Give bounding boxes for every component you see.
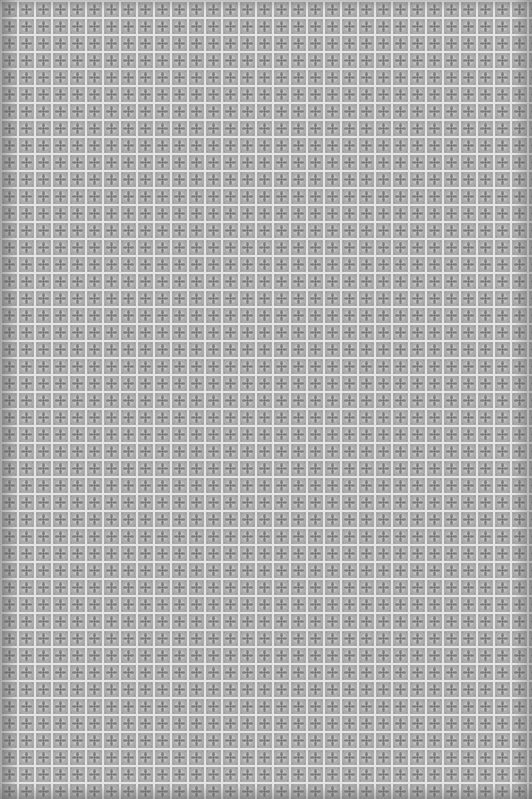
tile-pattern — [0, 0, 532, 799]
tiled-texture-image — [0, 0, 532, 799]
